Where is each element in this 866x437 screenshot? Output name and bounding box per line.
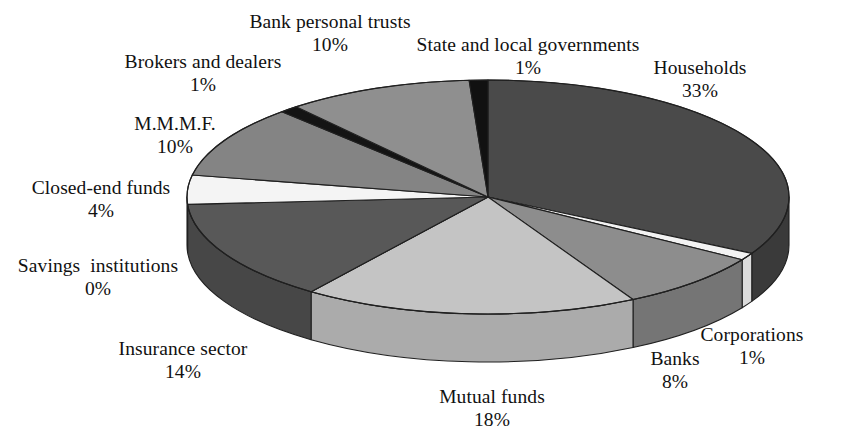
pie-slice-label-value: 10% — [45, 135, 305, 158]
pie-chart: Households33%Corporations1%Banks8%Mutual… — [0, 0, 866, 437]
pie-slice-label-name: Corporations — [622, 323, 866, 346]
pie-slice-label-value: 14% — [53, 360, 313, 383]
pie-slice-label-name: Banks — [545, 347, 805, 370]
pie-slice-label-name: State and local governments — [398, 33, 658, 56]
pie-slice-label-value: 33% — [570, 79, 830, 102]
pie-slice-label-name: M.M.M.F. — [45, 112, 305, 135]
pie-slice-label-value: 1% — [73, 73, 333, 96]
pie-slice-label-name: Closed-end funds — [0, 176, 231, 199]
pie-slice-label: Brokers and dealers1% — [73, 50, 333, 96]
pie-slice-label-name: Insurance sector — [53, 337, 313, 360]
pie-slice-label: Closed-end funds4% — [0, 176, 231, 222]
pie-slice-label-name: Bank personal trusts — [200, 10, 460, 33]
pie-slice-label: M.M.M.F.10% — [45, 112, 305, 158]
pie-slice-label-name: Savings institutions — [0, 254, 228, 277]
pie-slice-label-value: 18% — [362, 408, 622, 431]
pie-slice-label: Savings institutions0% — [0, 254, 228, 300]
pie-slice-label: Insurance sector14% — [53, 337, 313, 383]
pie-slice-label-value: 1% — [398, 56, 658, 79]
pie-slice-label: State and local governments1% — [398, 33, 658, 79]
pie-slice-label-value: 4% — [0, 199, 231, 222]
pie-slice-label-value: 0% — [0, 277, 228, 300]
pie-slice-label: Mutual funds18% — [362, 385, 622, 431]
pie-slice-label-name: Mutual funds — [362, 385, 622, 408]
